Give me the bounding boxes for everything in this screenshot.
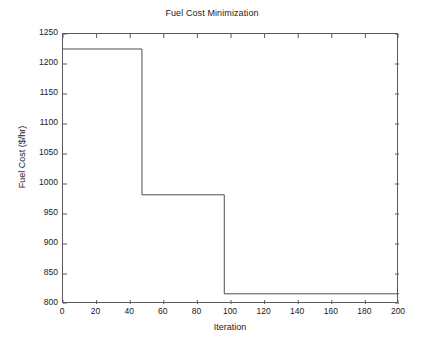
y-tick-label: 1050: [39, 148, 58, 157]
x-tick-label: 160: [324, 307, 338, 316]
x-tick-label: 140: [290, 307, 304, 316]
x-tick-label: 60: [158, 307, 167, 316]
y-tick-label: 900: [44, 238, 58, 247]
x-tick-label: 80: [192, 307, 201, 316]
y-tick-label: 1100: [40, 118, 58, 127]
plot-area: [62, 33, 398, 303]
y-tick-label: 850: [44, 268, 58, 277]
y-tick-label: 950: [44, 208, 58, 217]
x-axis-title: Iteration: [62, 322, 398, 332]
y-tick-label: 1150: [40, 88, 58, 97]
y-tick-label: 1250: [39, 28, 58, 37]
plot-svg: [63, 34, 399, 304]
x-tick-label: 120: [257, 307, 271, 316]
x-tick-label: 200: [391, 307, 405, 316]
x-tick-label: 100: [223, 307, 237, 316]
chart-title: Fuel Cost Minimization: [0, 8, 424, 18]
y-tick-label: 1200: [39, 58, 58, 67]
axis-tick-marks: [63, 34, 399, 304]
y-tick-label: 800: [44, 298, 58, 307]
y-tick-label: 1000: [39, 178, 58, 187]
x-tick-label: 20: [91, 307, 100, 316]
data-series-line: [63, 49, 399, 294]
x-tick-label: 0: [60, 307, 65, 316]
x-tick-label: 180: [357, 307, 371, 316]
x-axis-tick-labels: 020406080100120140160180200: [0, 307, 424, 321]
y-axis-tick-labels: 800850900950100010501100115012001250: [0, 0, 58, 351]
chart-figure: Fuel Cost Minimization Fuel Cost ($/hr) …: [0, 0, 424, 351]
x-tick-label: 40: [124, 307, 133, 316]
